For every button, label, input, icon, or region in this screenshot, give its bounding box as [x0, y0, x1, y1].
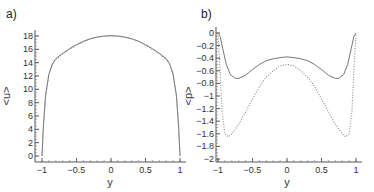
- x-tick-label: −0.5: [244, 165, 262, 175]
- panel-a-label: a): [6, 7, 17, 21]
- y-tick-label: −2: [204, 154, 214, 164]
- x-tick-label: 0: [108, 165, 113, 175]
- y-tick-label: −1: [204, 91, 214, 101]
- panel-b-ylabel: <p>: [182, 87, 194, 106]
- y-tick-label: 10: [23, 84, 33, 94]
- x-tick-label: 0.5: [139, 165, 152, 175]
- panel-a-series: [42, 36, 180, 156]
- series-dotted: [42, 36, 180, 156]
- y-tick-label: −0.4: [196, 53, 214, 63]
- y-tick-label: 0: [209, 28, 214, 38]
- series-solid: [218, 33, 356, 78]
- panel-a: a) <u> y −1−0.500.51024681012141618: [0, 7, 186, 188]
- y-tick-label: 14: [23, 58, 33, 68]
- x-tick-label: −1: [213, 165, 223, 175]
- y-tick-label: −0.2: [196, 41, 214, 51]
- y-tick-label: 18: [23, 31, 33, 41]
- x-tick-label: 1: [353, 165, 358, 175]
- series-dotted: [218, 33, 356, 137]
- y-tick-label: 8: [28, 98, 33, 108]
- y-tick-label: 2: [28, 138, 33, 148]
- y-tick-label: −1.2: [196, 104, 214, 114]
- panel-b: b) <p> y −1−0.500.510−0.2−0.4−0.6−0.8−1−…: [182, 7, 362, 188]
- y-tick-label: −0.8: [196, 78, 214, 88]
- x-tick-label: 0: [284, 165, 289, 175]
- panel-a-xlabel: y: [107, 176, 113, 188]
- x-tick-label: 0.5: [315, 165, 328, 175]
- x-tick-label: 1: [177, 165, 182, 175]
- figure: a) <u> y −1−0.500.51024681012141618 b) <…: [0, 0, 374, 192]
- y-tick-label: 16: [23, 44, 33, 54]
- x-tick-label: −0.5: [68, 165, 86, 175]
- y-tick-label: 12: [23, 71, 33, 81]
- panel-a-axes: −1−0.500.51024681012141618: [23, 30, 186, 175]
- y-tick-label: −1.4: [196, 116, 214, 126]
- y-tick-label: 6: [28, 111, 33, 121]
- y-tick-label: −1.6: [196, 129, 214, 139]
- y-tick-label: 0: [28, 151, 33, 161]
- panel-a-ylabel: <u>: [0, 87, 12, 106]
- panel-b-series: [218, 33, 356, 137]
- y-tick-label: −1.8: [196, 141, 214, 151]
- y-tick-label: 4: [28, 124, 33, 134]
- x-tick-label: −1: [37, 165, 47, 175]
- panel-b-label: b): [201, 7, 212, 21]
- y-tick-label: −0.6: [196, 66, 214, 76]
- panel-b-xlabel: y: [284, 176, 290, 188]
